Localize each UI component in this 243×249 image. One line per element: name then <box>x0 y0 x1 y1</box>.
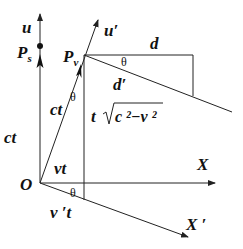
relativity-diagram: u Ps Pv u′ d θ d′ θ ct t c ²−v ² ct vt X… <box>0 0 243 249</box>
u-prime-axis <box>40 20 98 183</box>
label-X-prime: X ′ <box>185 215 206 234</box>
label-theta-bottom: θ <box>70 186 76 200</box>
label-theta-mid: θ <box>70 90 76 104</box>
label-ps: Ps <box>16 43 32 64</box>
label-O: O <box>20 175 32 194</box>
label-ct-left: ct <box>4 128 18 147</box>
label-vt: vt <box>54 159 68 178</box>
label-d-prime: d′ <box>113 75 126 94</box>
label-u: u <box>22 18 31 37</box>
label-pv: Pv <box>62 47 78 68</box>
label-v-prime-t: v ′t <box>50 203 73 222</box>
label-X: X <box>196 155 209 174</box>
label-theta-top: θ <box>121 55 127 69</box>
label-t-sqrt: t <box>91 107 97 126</box>
ps-dot <box>37 43 43 49</box>
label-d: d <box>150 34 159 53</box>
label-u-prime: u′ <box>104 21 118 40</box>
label-ct-diag: ct <box>50 100 64 119</box>
label-sqrt-expr: c ²−v ² <box>115 108 158 125</box>
